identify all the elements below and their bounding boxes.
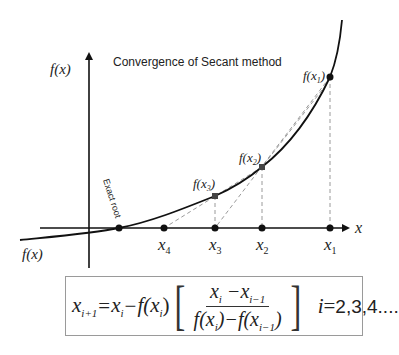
label-x2: x2 bbox=[255, 235, 269, 256]
bracket-open: [ bbox=[174, 279, 185, 333]
formula-fraction: xi −xi−1 f(xi)−f(xi−1) bbox=[192, 280, 284, 333]
x-axis-label: x bbox=[354, 219, 362, 236]
secant-formula-box: xi+1 = xi − f(xi) [ xi −xi−1 f(xi)−f(xi−… bbox=[65, 276, 363, 336]
fraction-numerator: xi −xi−1 bbox=[206, 280, 269, 307]
point-f-x1 bbox=[327, 74, 334, 81]
point-x3 bbox=[212, 225, 219, 232]
label-x3: x3 bbox=[208, 235, 222, 256]
label-f-x1: f(x1) bbox=[303, 68, 325, 85]
point-x1 bbox=[327, 225, 334, 232]
formula-xi: xi bbox=[111, 293, 123, 319]
diagram-title: Convergence of Secant method bbox=[113, 55, 282, 69]
point-x4 bbox=[161, 225, 168, 232]
point-f-x3 bbox=[212, 193, 218, 199]
point-x2 bbox=[259, 225, 266, 232]
exact-root-point bbox=[116, 225, 123, 232]
curve-label: f(x) bbox=[22, 246, 43, 263]
formula-equals: = bbox=[98, 294, 110, 319]
iteration-range: i=2,3,4.... bbox=[318, 294, 399, 319]
label-x1: x1 bbox=[323, 235, 337, 256]
fraction-denominator: f(xi)−f(xi−1) bbox=[192, 307, 284, 333]
formula-minus: − bbox=[125, 294, 137, 319]
bracket-close: ] bbox=[290, 279, 301, 333]
exact-root-label: Exact root bbox=[101, 178, 123, 220]
formula-lhs: xi+1 bbox=[72, 293, 97, 319]
function-curve bbox=[20, 20, 342, 240]
formula-f-xi: f(xi) bbox=[137, 293, 169, 319]
label-f-x3: f(x3) bbox=[193, 176, 215, 193]
label-x4: x4 bbox=[157, 235, 171, 256]
label-f-x2: f(x2) bbox=[239, 150, 261, 167]
y-axis-label: f(x) bbox=[50, 61, 71, 78]
